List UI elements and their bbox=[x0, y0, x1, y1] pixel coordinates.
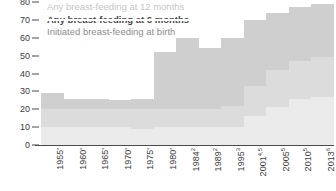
area-segment bbox=[289, 99, 312, 145]
x-tick-label: 19953 bbox=[237, 148, 246, 171]
y-tick-mark bbox=[32, 2, 39, 3]
y-tick-mark bbox=[32, 91, 39, 92]
y-tick-label: 30 bbox=[0, 87, 30, 96]
y-tick-label: 20 bbox=[0, 105, 30, 114]
chart-column bbox=[221, 2, 244, 145]
x-tick-label: 20014,5 bbox=[259, 148, 268, 176]
y-tick-mark bbox=[32, 55, 39, 56]
area-segment bbox=[221, 127, 244, 145]
y-tick-label: 40 bbox=[0, 69, 30, 78]
y-tick-label: 80 bbox=[0, 0, 30, 7]
x-tick-label: 19892 bbox=[214, 148, 223, 171]
x-tick-label: 20136 bbox=[327, 148, 336, 171]
chart-column bbox=[244, 2, 267, 145]
y-tick-mark bbox=[32, 127, 39, 128]
area-segment bbox=[199, 127, 222, 145]
area-segment bbox=[64, 127, 87, 145]
y-tick-label: 10 bbox=[0, 123, 30, 132]
area-segment bbox=[109, 127, 132, 145]
area-segment bbox=[244, 116, 267, 145]
x-tick-label: 19842 bbox=[192, 148, 201, 171]
area-segment bbox=[131, 129, 154, 145]
x-tick-label: 1975' bbox=[146, 148, 155, 170]
area-segment bbox=[154, 127, 177, 145]
x-axis-line bbox=[35, 145, 334, 146]
x-tick-label: 20105 bbox=[304, 148, 313, 171]
area-segment bbox=[266, 107, 289, 145]
y-tick-label: 0 bbox=[0, 141, 30, 150]
chart-column bbox=[266, 2, 289, 145]
y-tick-mark bbox=[32, 37, 39, 38]
area-segment bbox=[176, 127, 199, 145]
gridline bbox=[41, 1, 334, 3]
y-tick-label: 50 bbox=[0, 51, 30, 60]
y-tick-mark bbox=[32, 73, 39, 74]
x-tick-label: 20055 bbox=[282, 148, 291, 171]
x-tick-label: 1955' bbox=[56, 148, 65, 170]
x-tick-label: 1960' bbox=[79, 148, 88, 170]
area-segment bbox=[86, 127, 109, 145]
y-tick-mark bbox=[32, 109, 39, 110]
chart-column bbox=[311, 2, 334, 145]
x-tick-label: 1980' bbox=[169, 148, 178, 170]
area-segment bbox=[311, 97, 334, 145]
y-tick-mark bbox=[32, 19, 39, 20]
chart-column bbox=[289, 2, 312, 145]
chart-column bbox=[199, 2, 222, 145]
x-tick-label: 1970' bbox=[124, 148, 133, 170]
y-tick-label: 60 bbox=[0, 33, 30, 42]
legend-item-any-12-months: Any breast-feeding at 12 months bbox=[47, 1, 189, 14]
y-tick-label: 70 bbox=[0, 15, 30, 24]
x-tick-label: 1965' bbox=[101, 148, 110, 170]
area-segment bbox=[41, 127, 64, 145]
